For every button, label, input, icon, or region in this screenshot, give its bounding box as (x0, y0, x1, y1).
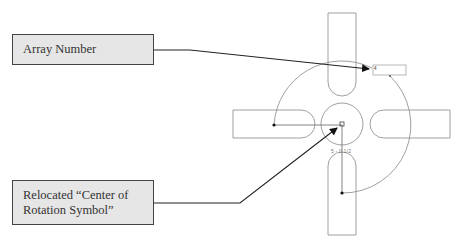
callout-array-number: Array Number (12, 34, 154, 65)
callout-center-of-rotation: Relocated “Center of Rotation Symbol” (12, 180, 154, 225)
callout-array-number-label: Array Number (23, 42, 96, 57)
callout-center-of-rotation-label: Relocated “Center of Rotation Symbol” (23, 188, 143, 218)
leader-center-symbol (154, 128, 337, 203)
array-grip-dot (389, 75, 391, 77)
rotation-arc-lower (342, 76, 411, 193)
array-number-box[interactable] (373, 65, 406, 75)
endpoint-dot-bottom (340, 191, 343, 194)
leader-array-number (154, 50, 369, 69)
hub-dimension-label: 5 - 0 1/2 (331, 148, 351, 154)
endpoint-dot-left (272, 123, 275, 126)
slot-top (328, 13, 356, 96)
array-number-value: 4 (374, 66, 377, 71)
